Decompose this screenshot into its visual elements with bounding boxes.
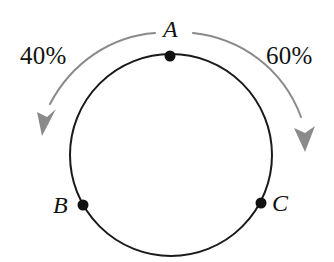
right-arrowhead-icon xyxy=(294,126,315,152)
point-label-a: A xyxy=(163,17,178,41)
percent-label-left: 40% xyxy=(20,43,66,68)
point-marker-a xyxy=(165,51,176,62)
point-label-b: B xyxy=(53,193,68,217)
circle-percentage-diagram: 40% 60% A B C xyxy=(0,0,334,262)
left-arrowhead-icon xyxy=(37,109,56,136)
main-circle xyxy=(70,54,272,256)
point-label-c: C xyxy=(272,191,288,215)
point-marker-c xyxy=(256,198,267,209)
point-marker-b xyxy=(78,200,89,211)
point-marker-group xyxy=(78,51,267,211)
percent-label-right: 60% xyxy=(266,43,312,68)
